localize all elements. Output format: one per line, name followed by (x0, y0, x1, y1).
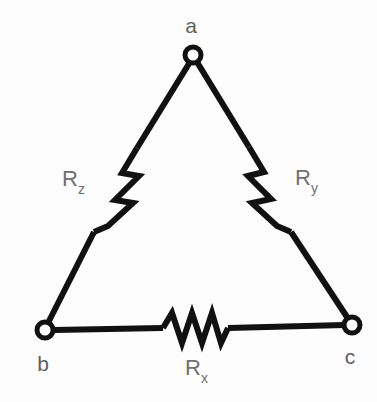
wire-b-to-rx (54, 328, 163, 330)
terminal-node-b (37, 322, 53, 338)
terminal-node-c (344, 317, 360, 333)
node-label-c: c (345, 345, 356, 368)
resistor-label-rx: R x (185, 355, 208, 386)
resistor-label-ry: R y (295, 165, 318, 196)
resistor-label-ry-main: R (295, 165, 311, 190)
wire-a-to-rz (137, 62, 190, 148)
branch-ac (197, 62, 347, 317)
node-label-b: b (37, 352, 49, 375)
resistor-label-rx-main: R (185, 355, 201, 380)
resistor-ry-zigzag (248, 147, 291, 232)
resistor-label-rz: R z (62, 166, 85, 197)
wire-rz-to-b (49, 232, 94, 321)
node-label-a: a (185, 14, 197, 37)
resistor-label-rz-sub: z (78, 181, 85, 197)
circuit-svg: a b c R x R y R z (0, 0, 377, 402)
branch-bc (54, 313, 344, 343)
wire-a-to-ry (197, 62, 249, 147)
wire-rx-to-c (228, 325, 344, 328)
resistor-rx-zigzag (163, 313, 228, 343)
resistor-label-rz-main: R (62, 166, 78, 191)
resistor-label-ry-sub: y (311, 180, 318, 196)
resistor-label-rx-sub: x (201, 370, 208, 386)
circuit-diagram: a b c R x R y R z (0, 0, 377, 402)
branch-ab (49, 62, 190, 321)
resistor-rz-zigzag (94, 148, 139, 232)
wire-ry-to-c (291, 232, 347, 317)
terminal-node-a (185, 47, 201, 63)
